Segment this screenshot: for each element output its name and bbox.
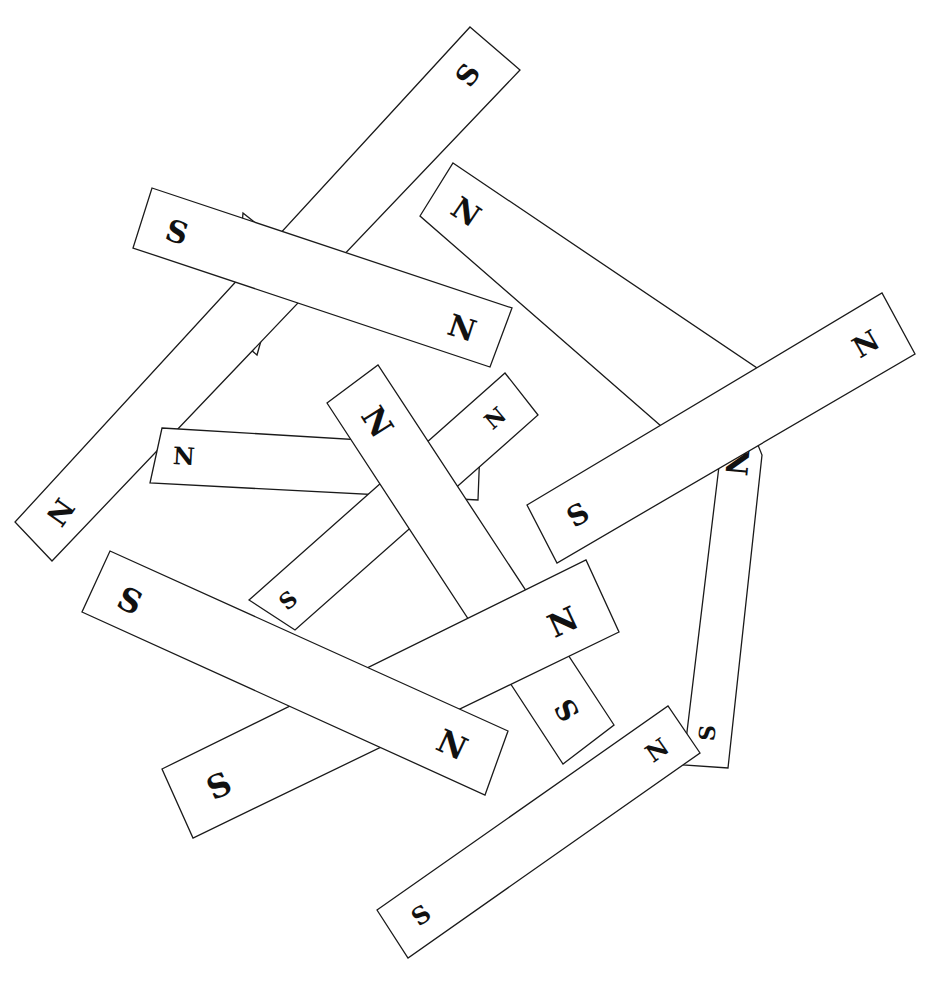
magnet-layer: NSNNSNSNNSNNSSNSNSNSN [15,27,915,958]
south-pole-label: S [693,724,720,742]
north-pole-label: N [172,441,195,471]
magnet-diagram-canvas: NSNNSNSNNSNNSSNSNSNSN [0,0,930,981]
magnet-diagram: NSNNSNSNNSNNSSNSNSNSN [0,0,930,981]
